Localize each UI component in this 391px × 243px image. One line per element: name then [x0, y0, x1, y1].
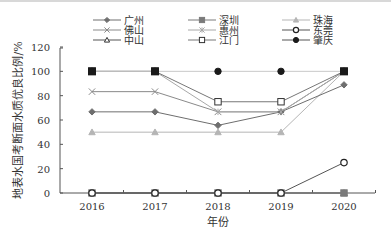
series-江门	[92, 71, 344, 101]
square-open-marker-icon	[215, 99, 221, 105]
square-open-marker-icon	[199, 37, 204, 42]
y-tick-label: 0	[44, 188, 50, 199]
diamond-marker-icon	[341, 82, 347, 88]
x-tick-label: 2020	[331, 201, 356, 212]
series-佛山	[92, 71, 344, 112]
line-chart: 广州深圳珠海佛山惠州东莞中山江门肇庆 020406080100120 20162…	[0, 0, 391, 243]
y-ticks: 020406080100120	[31, 42, 63, 199]
y-tick-label: 20	[37, 164, 50, 175]
square-open-marker-icon	[278, 99, 284, 105]
x-axis-label: 年份	[207, 215, 229, 229]
legend-item-肇庆: 肇庆	[282, 34, 333, 46]
legend-label: 中山	[124, 34, 144, 46]
legend-label: 肇庆	[313, 34, 333, 46]
circle-open-marker-icon	[89, 190, 95, 196]
y-tick-label: 100	[31, 66, 50, 77]
x-tick-label: 2017	[142, 201, 167, 212]
legend-item-江门: 江门	[188, 34, 239, 46]
diamond-marker-icon	[215, 122, 221, 128]
y-tick-label: 120	[31, 42, 50, 53]
circle-open-marker-icon	[293, 27, 298, 32]
x-tick-label: 2018	[205, 201, 230, 212]
overlap-square-marker-icon	[341, 68, 348, 75]
y-axis-label: 地表水国考断面水质优良比例/%	[11, 41, 25, 198]
legend-item-中山: 中山	[93, 34, 144, 46]
circle-marker-icon	[278, 68, 284, 74]
y-tick-label: 40	[37, 139, 50, 150]
square-marker-icon	[341, 190, 347, 196]
overlap-square-marker-icon	[152, 68, 159, 75]
legend: 广州深圳珠海佛山惠州东莞中山江门肇庆	[93, 14, 333, 46]
diamond-marker-icon	[89, 109, 95, 115]
square-marker-icon	[199, 17, 204, 22]
series-东莞	[92, 163, 344, 193]
y-tick-label: 80	[37, 91, 50, 102]
x-tick-label: 2019	[268, 201, 293, 212]
circle-open-marker-icon	[278, 190, 284, 196]
circle-open-marker-icon	[215, 190, 221, 196]
series-lines	[89, 68, 348, 196]
markers-东莞	[89, 159, 347, 196]
y-tick-label: 60	[37, 115, 50, 126]
overlap-square-marker-icon	[89, 68, 96, 75]
circle-open-marker-icon	[341, 159, 347, 165]
x-tick-label: 2016	[79, 201, 104, 212]
circle-open-marker-icon	[152, 190, 158, 196]
diamond-marker-icon	[152, 109, 158, 115]
circle-marker-icon	[215, 68, 221, 74]
legend-label: 江门	[219, 34, 239, 46]
circle-marker-icon	[293, 37, 298, 42]
triangle-marker-icon	[293, 17, 298, 22]
diamond-marker-icon	[104, 17, 109, 22]
triangle-open-marker-icon	[104, 37, 109, 42]
